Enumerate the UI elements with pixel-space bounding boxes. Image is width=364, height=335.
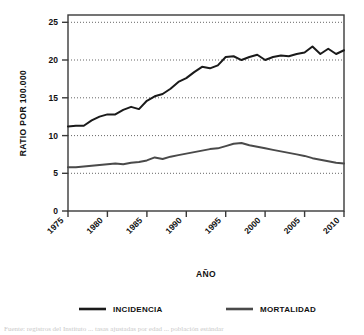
xtick-label-1995: 1995 <box>203 215 224 236</box>
xtick-label-2000: 2000 <box>242 215 263 236</box>
y-axis-tick-labels: 25 20 15 10 5 0 <box>49 17 59 216</box>
xtick-label-1985: 1985 <box>124 215 145 236</box>
y-axis-title: RATIO POR 100.000 <box>18 70 28 156</box>
legend: INCIDENCIA MORTALIDAD <box>79 305 316 314</box>
legend-label-mortalidad: MORTALIDAD <box>260 305 316 314</box>
plot-frame <box>68 15 344 211</box>
line-chart: 25 20 15 10 5 0 1975 1980 1985 1990 1995… <box>0 0 364 335</box>
x-axis-title: AÑO <box>196 269 216 279</box>
ytick-label-15: 15 <box>49 93 59 103</box>
legend-item-incidencia[interactable]: INCIDENCIA <box>79 305 163 314</box>
legend-label-incidencia: INCIDENCIA <box>113 305 163 314</box>
ytick-label-10: 10 <box>49 131 59 141</box>
ytick-label-25: 25 <box>49 17 59 27</box>
xtick-label-1980: 1980 <box>84 215 105 236</box>
ytick-label-20: 20 <box>49 55 59 65</box>
legend-item-mortalidad[interactable]: MORTALIDAD <box>226 305 316 314</box>
cropped-caption-text: Fuente: registros del Instituto ... tasa… <box>4 325 344 333</box>
y-axis-ticks <box>62 22 68 211</box>
xtick-label-1975: 1975 <box>45 215 66 236</box>
ytick-label-5: 5 <box>53 168 58 178</box>
ytick-label-0: 0 <box>53 206 58 216</box>
xtick-label-1990: 1990 <box>163 215 184 236</box>
xtick-label-2010: 2010 <box>321 215 342 236</box>
figure-container: 25 20 15 10 5 0 1975 1980 1985 1990 1995… <box>0 0 364 335</box>
xtick-label-2005: 2005 <box>282 215 303 236</box>
x-axis-ticks <box>68 211 344 217</box>
x-axis-tick-labels: 1975 1980 1985 1990 1995 2000 2005 2010 <box>45 215 342 236</box>
plot-area-border <box>68 15 344 211</box>
